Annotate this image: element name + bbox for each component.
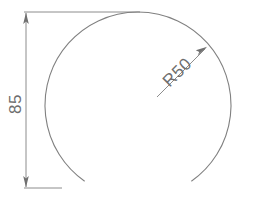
technical-drawing-canvas: 85 R50 (0, 0, 262, 198)
height-dimension-label: 85 (6, 94, 25, 114)
radius-dimension-label: R50 (159, 54, 196, 91)
drawing-svg: 85 R50 (0, 0, 262, 198)
main-arc (45, 12, 231, 181)
arrowhead-radius-icon (196, 47, 207, 56)
